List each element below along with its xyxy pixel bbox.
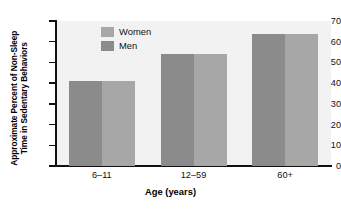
y-axis-tick (49, 41, 56, 42)
x-axis-tick-label: 12–59 (154, 170, 234, 180)
bar-women-0 (102, 81, 135, 166)
x-axis-tick-label: 6–11 (62, 170, 142, 180)
y-axis-tick (49, 165, 56, 166)
y-axis-tick (49, 62, 56, 63)
bar-women-1 (194, 54, 227, 166)
y-axis-tick (49, 20, 56, 21)
y-axis-tick (49, 82, 56, 83)
y-axis-title: Approximate Percent of Non-Sleep Time in… (9, 10, 29, 186)
bar-men-1 (161, 54, 194, 166)
bar-chart-figure: Approximate Percent of Non-Sleep Time in… (0, 0, 341, 211)
x-axis-title: Age (years) (0, 186, 341, 197)
legend-label: Men (119, 41, 137, 51)
y-axis-tick-label: 70 (295, 16, 341, 26)
legend: WomenMen (101, 25, 151, 53)
legend-item-women: Women (101, 25, 151, 38)
y-axis-tick (49, 145, 56, 146)
bar-men-2 (252, 34, 285, 166)
bar-men-0 (69, 81, 102, 166)
legend-label: Women (119, 27, 151, 37)
x-axis-tick-label: 60+ (245, 170, 325, 180)
y-axis-tick (49, 124, 56, 125)
legend-swatch-icon (101, 27, 114, 37)
y-axis-tick (49, 103, 56, 104)
legend-item-men: Men (101, 39, 151, 52)
legend-swatch-icon (101, 41, 114, 51)
bar-women-2 (285, 34, 318, 166)
